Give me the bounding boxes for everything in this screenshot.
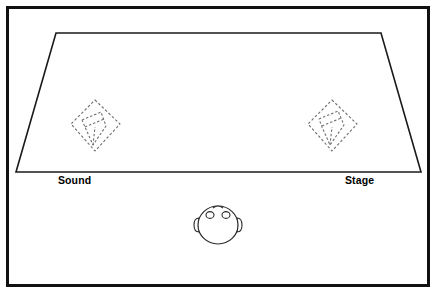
left-eye-icon [206,212,214,219]
label-stage: Stage [345,174,374,186]
venue-floor-plan-diagram: Sound Stage [0,0,436,293]
label-sound: Sound [58,174,91,186]
head-outline [198,206,238,244]
right-eye-icon [222,212,230,219]
diagram-canvas [0,0,436,293]
room-floor-trapezoid [16,33,421,172]
person-head-top-view [194,206,242,244]
